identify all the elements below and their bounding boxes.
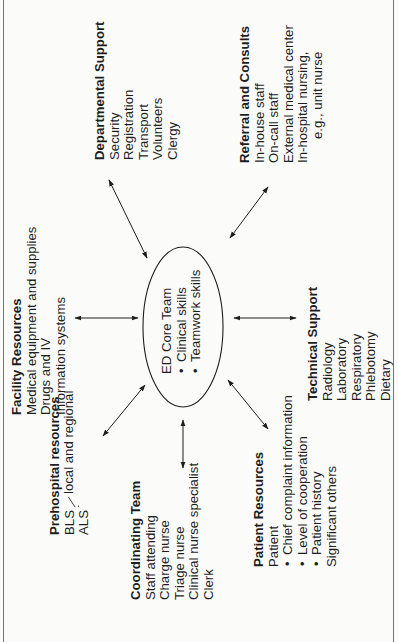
node-item: In-house staff [253,25,268,163]
node-item: Triage nurse [173,463,188,600]
node-item: Medical equipment and supplies [25,227,40,415]
node-title: Coordinating Team [129,463,144,600]
node-item: Drugs and IV [39,227,54,415]
als-label: ALS [77,505,92,535]
core-team-bullet: Teamwork skills [189,270,204,374]
node-title: Facility Resources [10,227,25,415]
prehospital-bls-row: BLS local and regional [63,391,78,535]
prehospital-qualifier: local and regional [62,391,77,494]
prehospital-als-row: ALS [77,391,92,535]
bracket-line-down-icon [78,496,90,508]
bls-label: BLS [63,505,78,535]
node-technical-support: Technical Support Radiology Laboratory R… [306,287,394,401]
node-item: Radiology [321,287,336,401]
node-item: Significant others [325,395,340,567]
node-item: Clergy [166,22,181,160]
node-item: Information systems [54,227,69,415]
core-team-title: ED Core Team [160,270,175,374]
node-bullet: Patient history [310,395,325,567]
node-title: Technical Support [306,287,321,401]
node-bullet: Level of cooperation [296,395,311,567]
node-referral-consults: Referral and Consults In-house staff On-… [238,25,326,163]
node-bullet: Chief complaint information [281,395,296,567]
node-item: On-call staff [267,25,282,163]
node-item: Phlebotomy [364,287,379,401]
node-item: In-hospital nursing, [296,25,311,163]
core-team-label: ED Core Team Clinical skills Teamwork sk… [160,270,204,374]
node-facility-resources: Facility Resources Medical equipment and… [10,227,68,415]
arrow-departmental-support [109,180,147,258]
arrow-referral-consults [230,187,268,238]
node-item-continuation: e.g., unit nurse [311,25,326,163]
node-item: Respiratory [350,287,365,401]
bracket-line-up-icon [64,496,76,508]
node-patient-resources: Patient Resources Patient Chief complain… [252,395,340,567]
node-departmental-support: Departmental Support Security Registrati… [93,22,181,160]
core-team-bullet: Clinical skills [175,270,190,374]
node-item: Laboratory [335,287,350,401]
node-item: External medical center [282,25,297,163]
node-item: Security [108,22,123,160]
node-coordinating-team: Coordinating Team Staff attending Charge… [129,463,217,600]
node-item: Patient [267,395,282,567]
arrow-prehospital-resources [103,385,145,436]
node-title: Departmental Support [93,22,108,160]
node-item: Registration [122,22,137,160]
node-item: Volunteers [151,22,166,160]
diagram-canvas: ED Core Team Clinical skills Teamwork sk… [0,0,398,642]
node-item: Staff attending [144,463,159,600]
node-title: Patient Resources [252,395,267,567]
node-item: Dietary [379,287,394,401]
node-item: Charge nurse [158,463,173,600]
node-prehospital-resources: Prehospital resources BLS local and regi… [48,391,92,535]
node-item: Clerk [202,463,217,600]
node-item: Transport [137,22,152,160]
node-title: Referral and Consults [238,25,253,163]
node-item: Clinical nurse specialist [187,463,202,600]
